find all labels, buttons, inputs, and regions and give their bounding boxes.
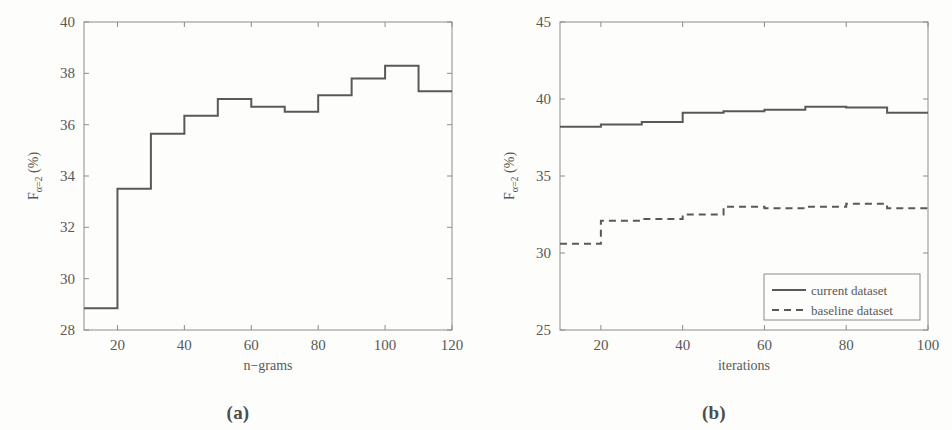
plot-frame: [84, 22, 452, 330]
x-tick-label: 20: [110, 337, 125, 353]
y-axis-title: Fα=2 (%): [502, 152, 520, 201]
legend-label-0: current dataset: [811, 283, 888, 298]
x-tick-label: 40: [675, 337, 690, 353]
x-tick-label: 120: [441, 337, 464, 353]
chart-panel-b: 204060801002530354045iterationsFα=2 (%)c…: [476, 0, 952, 430]
y-tick-label: 45: [536, 14, 551, 30]
legend-label-1: baseline dataset: [811, 303, 893, 318]
series-line-0: [84, 66, 452, 309]
x-tick-label: 100: [917, 337, 940, 353]
y-tick-label: 30: [60, 271, 75, 287]
chart-svg-a: 2040608010012028303234363840n−gramsFα=2 …: [0, 0, 476, 395]
x-tick-label: 60: [757, 337, 772, 353]
figure-root: 2040608010012028303234363840n−gramsFα=2 …: [0, 0, 952, 430]
y-tick-label: 30: [536, 245, 551, 261]
panel-caption-b: (b): [476, 402, 952, 424]
chart-svg-b: 204060801002530354045iterationsFα=2 (%)c…: [476, 0, 952, 395]
y-tick-label: 40: [60, 14, 75, 30]
series-line-0: [560, 107, 928, 127]
x-tick-label: 60: [244, 337, 259, 353]
y-tick-label: 36: [60, 117, 76, 133]
y-axis-title: Fα=2 (%): [26, 152, 44, 201]
y-tick-label: 38: [60, 65, 75, 81]
x-tick-label: 80: [311, 337, 326, 353]
y-tick-label: 28: [60, 322, 75, 338]
chart-panel-a: 2040608010012028303234363840n−gramsFα=2 …: [0, 0, 476, 430]
x-axis-title: iterations: [718, 358, 770, 373]
x-tick-label: 40: [177, 337, 192, 353]
x-tick-label: 20: [593, 337, 608, 353]
series-line-1: [560, 204, 928, 244]
y-axis-title-text: Fα=2 (%): [502, 152, 520, 201]
y-tick-label: 35: [536, 168, 551, 184]
panel-caption-a: (a): [0, 402, 476, 424]
x-tick-label: 80: [839, 337, 854, 353]
y-tick-label: 25: [536, 322, 551, 338]
x-axis-title: n−grams: [243, 358, 292, 373]
x-tick-label: 100: [374, 337, 397, 353]
y-tick-label: 32: [60, 219, 75, 235]
y-tick-label: 40: [536, 91, 551, 107]
y-axis-title-text: Fα=2 (%): [26, 152, 44, 201]
y-tick-label: 34: [60, 168, 76, 184]
